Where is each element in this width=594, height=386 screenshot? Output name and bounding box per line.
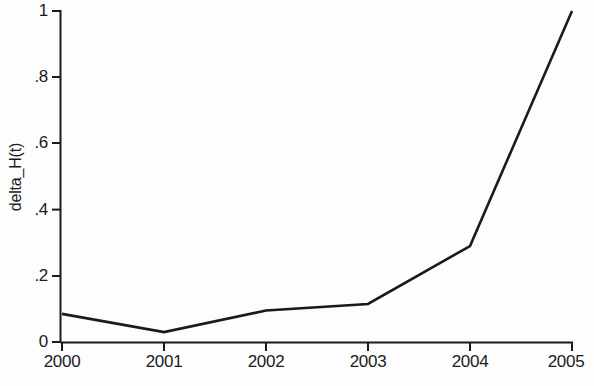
plot-area — [0, 0, 594, 386]
y-axis-ticks — [52, 11, 61, 342]
data-series-line — [62, 11, 572, 332]
chart-figure: delta_H(t) 1 .8 .6 .4 .2 0 2000 2001 200… — [0, 0, 594, 386]
x-axis-ticks — [62, 343, 572, 352]
